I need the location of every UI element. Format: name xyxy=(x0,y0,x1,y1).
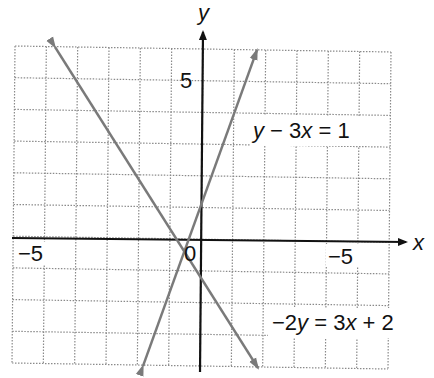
x-axis-label: x xyxy=(412,230,425,255)
x-tick-label-left: −5 xyxy=(18,241,43,266)
x-axis xyxy=(12,238,406,242)
x-tick-label-right: −5 xyxy=(328,244,353,269)
y-tick-label-top: 5 xyxy=(180,68,192,93)
origin-label: 0 xyxy=(184,241,196,266)
y-axis-label: y xyxy=(196,0,211,25)
coordinate-plane: y x −5 −5 0 5 y − 3x = 1 −2y = 3x + 2 xyxy=(0,0,434,378)
equation-1-label: y − 3x = 1 xyxy=(251,118,350,143)
equation-2-label: −2y = 3x + 2 xyxy=(272,310,394,335)
